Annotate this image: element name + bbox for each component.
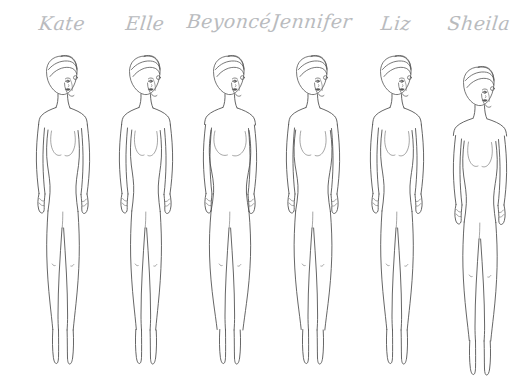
female-croquis-icon [184,0,274,386]
female-croquis-icon [267,0,357,386]
croquis-figure-elle[interactable]: Elle [100,0,190,386]
female-croquis-icon [17,0,107,386]
female-croquis-icon [434,0,524,386]
croquis-figure-kate[interactable]: Kate [17,0,107,386]
female-croquis-icon [351,0,441,386]
female-croquis-icon [100,0,190,386]
croquis-figure-jennifer[interactable]: Jennifer [267,0,357,386]
croquis-figure-beyonc[interactable]: Beyoncé [184,0,274,386]
croquis-lineup-canvas: Kate [0,0,531,386]
croquis-figure-liz[interactable]: Liz [351,0,441,386]
croquis-figure-sheila[interactable]: Sheila [434,0,524,386]
